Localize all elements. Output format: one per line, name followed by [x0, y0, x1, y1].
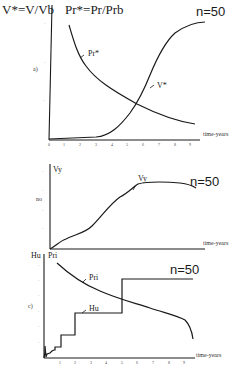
svg-text:3: 3 — [90, 360, 92, 365]
svg-text:2: 2 — [74, 360, 76, 365]
svg-text:9: 9 — [189, 142, 191, 147]
svg-text:·: · — [43, 98, 44, 103]
pr-star-definition: Pr*=Pr/Prb — [65, 2, 124, 17]
v-star-definition: V*=V/Vb — [2, 2, 54, 17]
panel-a-y-axis — [49, 5, 52, 140]
panel-b-panel-label: no — [36, 196, 42, 202]
svg-text:6: 6 — [142, 142, 144, 147]
panel-b: Vy n=50 no · · · · time-years Vy — [36, 164, 229, 249]
svg-text:2: 2 — [79, 142, 81, 147]
panel-a-label: a) — [33, 66, 38, 73]
svg-text:5: 5 — [121, 360, 123, 365]
svg-text:·: · — [38, 293, 39, 298]
svg-text:4: 4 — [111, 142, 113, 147]
panel-a-x-axis-label: time-years — [203, 131, 229, 137]
svg-text:·: · — [38, 324, 39, 329]
svg-text:7: 7 — [158, 142, 160, 147]
hu-label: Hu — [89, 304, 99, 313]
svg-text:8: 8 — [168, 360, 170, 365]
svg-text:·: · — [38, 340, 39, 345]
panel-c-x-ticks: 1 2 3 4 5 6 7 8 9 — [59, 360, 185, 365]
panel-b-y-axis-label: Vy — [53, 165, 62, 174]
svg-text:6: 6 — [136, 360, 138, 365]
pr-star-label: Pr* — [88, 49, 99, 58]
panel-c-y-axis-label: Hu — [31, 251, 41, 260]
svg-text:·: · — [42, 188, 43, 193]
svg-text:·: · — [44, 21, 45, 26]
panel-c-n-label: n=50 — [170, 262, 199, 277]
svg-text:·: · — [44, 60, 45, 65]
panel-c-panel-label: c) — [28, 303, 33, 310]
panel-a-x-ticks: 0 1 2 3 4 5 6 7 8 9 — [48, 142, 191, 147]
panel-c: Hu Pri n=50 c) · · · · · · 1 2 3 4 5 6 7… — [28, 251, 222, 365]
vy-label: Vy — [138, 174, 147, 183]
svg-text:4: 4 — [105, 360, 107, 365]
svg-text:·: · — [42, 226, 43, 231]
panel-a-n-label: n=50 — [196, 4, 225, 19]
panel-a: n=50 a) · · · 0 1 2 3 4 5 6 7 8 9 time-y… — [33, 4, 229, 147]
svg-text:·: · — [38, 263, 39, 268]
v-star-label: V* — [157, 81, 167, 90]
svg-text:1: 1 — [59, 360, 61, 365]
svg-text:0: 0 — [48, 142, 50, 147]
svg-text:7: 7 — [152, 360, 154, 365]
svg-text:8: 8 — [174, 142, 176, 147]
panel-c-pri-axis-label: Pri — [48, 251, 58, 260]
svg-text:·: · — [38, 278, 39, 283]
svg-text:1: 1 — [63, 142, 65, 147]
chart-figure: V*=V/Vb Pr*=Pr/Prb n=50 a) · · · 0 1 2 3… — [0, 0, 249, 376]
vy-curve — [50, 182, 196, 249]
svg-text:3: 3 — [95, 142, 97, 147]
svg-text:9: 9 — [183, 360, 185, 365]
svg-text:5: 5 — [126, 142, 128, 147]
svg-text:·: · — [42, 208, 43, 213]
hu-curve — [44, 279, 193, 358]
pri-label: Pri — [89, 273, 99, 282]
svg-text:·: · — [38, 309, 39, 314]
panel-b-x-axis-label: time-years — [203, 240, 229, 246]
panel-c-x-axis-label: time-years — [196, 352, 222, 358]
svg-text:·: · — [42, 169, 43, 174]
